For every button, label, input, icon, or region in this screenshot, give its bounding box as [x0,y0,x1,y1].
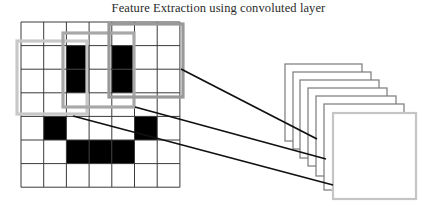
convolution-diagram [0,0,429,214]
filled-cell [44,116,67,140]
feature-map-stack [285,64,416,199]
filled-cell [66,140,89,164]
filled-cell [112,46,135,70]
filled-cell [89,140,112,164]
feature-map-sheet-7 [333,113,416,199]
filled-cell [112,140,135,164]
filled-cell [112,69,135,93]
filled-cell [135,116,158,140]
input-grid-filled-cells [44,46,158,164]
